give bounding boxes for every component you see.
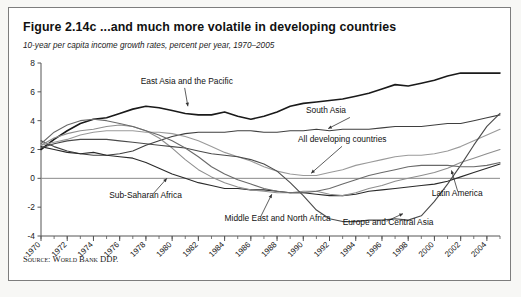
x-tick-label: 1980 (155, 240, 174, 258)
x-tick-label: 1994 (338, 240, 357, 258)
x-tick-label: 1990 (286, 240, 305, 258)
line-chart: 86420-2-41970197219741976197819801982198… (9, 8, 512, 258)
annotation-arrowhead (186, 102, 189, 106)
annotation-label: Latin America (432, 188, 483, 198)
y-tick-label: 2 (30, 145, 35, 155)
annotation-leader (311, 146, 342, 173)
series-line-all-developing-countries (41, 129, 500, 175)
y-tick-label: -2 (28, 202, 36, 212)
annotation-label: East Asia and the Pacific (141, 76, 233, 86)
x-tick-label: 1996 (364, 240, 383, 258)
y-tick-label: -4 (28, 231, 36, 241)
y-tick-label: 8 (30, 58, 35, 68)
x-tick-label: 1986 (233, 240, 252, 258)
y-tick-label: 0 (30, 173, 35, 183)
x-tick-label: 1988 (260, 240, 279, 258)
annotation-leader (328, 117, 350, 128)
chart-plot-area: 86420-2-41970197219741976197819801982198… (9, 8, 512, 282)
series-line-east-asia-and-the-pacific (41, 73, 500, 149)
x-tick-label: 1978 (128, 240, 147, 258)
figure-page: Figure 2.14c ...and much more volatile i… (0, 0, 521, 297)
x-tick-label: 2002 (443, 240, 462, 258)
x-tick-label: 1998 (391, 240, 410, 258)
annotation-label: South Asia (306, 105, 346, 115)
x-tick-label: 1982 (181, 240, 200, 258)
x-tick-label: 2000 (417, 240, 436, 258)
figure-source: Source: World Bank DDP. (23, 254, 118, 264)
figure-panel: Figure 2.14c ...and much more volatile i… (8, 7, 511, 281)
x-tick-label: 1992 (312, 240, 331, 258)
x-tick-label: 1984 (207, 240, 226, 258)
x-tick-label: 2004 (469, 240, 488, 258)
annotation-label: Europe and Central Asia (343, 217, 434, 227)
series-line-middle-east-and-north-africa (41, 125, 500, 196)
annotation-label: Middle East and North Africa (225, 213, 331, 223)
series-line-europe-and-central-asia (41, 113, 500, 221)
annotation-label: Sub-Saharan Africa (109, 190, 182, 200)
annotation-label: All developing countries (298, 134, 386, 144)
y-tick-label: 6 (30, 87, 35, 97)
source-label: Source: (23, 254, 51, 264)
source-text: World Bank DDP. (53, 254, 119, 264)
y-tick-label: 4 (30, 116, 35, 126)
